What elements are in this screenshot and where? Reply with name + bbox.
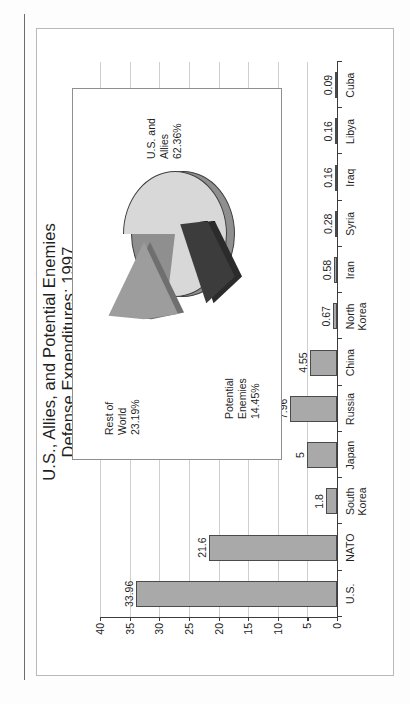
- bar: 0.67: [333, 303, 337, 329]
- bar-value-label: 4.55: [297, 352, 309, 372]
- y-axis-tick: [130, 617, 131, 621]
- pie-label-us-and-allies: U.S. and Allies 62.36%: [145, 93, 184, 159]
- chart-canvas: U.S., Allies, and Potential Enemies Defe…: [38, 30, 390, 674]
- bar: 0.58: [334, 257, 337, 283]
- y-axis-tick-label: 5: [301, 623, 313, 629]
- figure-caption: Figure 2.2: [0, 606, 2, 696]
- x-axis-category-label: Iran: [344, 261, 356, 279]
- bar: 0.16: [335, 118, 337, 144]
- y-axis-tick-label: 35: [124, 623, 136, 635]
- bar: 0.28: [335, 211, 337, 237]
- bar: 1.8: [326, 488, 337, 514]
- x-axis-tick: [337, 107, 342, 108]
- pie-label-potential-enemies: Potential Enemies 14.45%: [223, 347, 262, 419]
- bar-value-label: 21.6: [196, 537, 208, 557]
- bar-value-label: 0.09: [322, 75, 334, 95]
- y-axis-tick: [100, 617, 101, 621]
- x-axis-category-label: Cuba: [344, 73, 356, 98]
- x-axis-tick: [337, 153, 342, 154]
- x-axis-tick: [337, 616, 342, 617]
- x-axis-category-label: Syria: [344, 212, 356, 236]
- x-axis-tick: [337, 292, 342, 293]
- pie-label-rest-of-world: Rest of World 23.19%: [103, 369, 142, 435]
- x-axis-tick: [337, 431, 342, 432]
- bar: 33.96: [136, 581, 337, 607]
- inset-pie-panel: U.S. and Allies 62.36% Rest of World 23.…: [72, 88, 282, 460]
- y-axis-tick: [248, 617, 249, 621]
- chart-rotation-wrapper: U.S., Allies, and Potential Enemies Defe…: [38, 30, 390, 674]
- bar: 5: [307, 442, 337, 468]
- y-axis-tick-label: 20: [213, 623, 225, 635]
- x-axis-category-label: South Korea: [344, 487, 368, 515]
- y-axis-tick: [307, 617, 308, 621]
- y-axis-tick: [159, 617, 160, 621]
- x-axis-tick: [337, 61, 342, 62]
- page-background: Figure 2.2 U.S., Allies, and Potential E…: [0, 0, 410, 704]
- bar: 7.96: [290, 396, 337, 422]
- bar: 21.6: [209, 535, 337, 561]
- y-axis-tick-label: 25: [183, 623, 195, 635]
- pie-chart: [97, 153, 262, 323]
- x-axis-tick: [337, 523, 342, 524]
- bar: 0.16: [335, 165, 337, 191]
- x-axis-category-label: Japan: [344, 441, 356, 470]
- x-axis-tick: [337, 338, 342, 339]
- y-axis-tick-label: 40: [94, 623, 106, 635]
- x-axis-tick: [337, 200, 342, 201]
- bar-value-label: 5: [294, 452, 306, 458]
- x-axis-tick: [337, 246, 342, 247]
- bar-value-label: 1.8: [313, 494, 325, 509]
- caption-vertical-rule: [24, 14, 25, 680]
- x-axis-category-label: Libya: [344, 119, 356, 144]
- x-axis-category-label: North Korea: [344, 302, 368, 330]
- y-axis-tick: [337, 617, 338, 621]
- bar-value-label: 0.28: [322, 214, 334, 234]
- x-axis-tick: [337, 385, 342, 386]
- y-axis-tick: [189, 617, 190, 621]
- x-axis-tick: [337, 570, 342, 571]
- bar-value-label: 0.16: [322, 167, 334, 187]
- y-axis-tick: [219, 617, 220, 621]
- bar: 4.55: [310, 350, 337, 376]
- x-axis-category-label: NATO: [344, 534, 356, 562]
- x-axis-category-label: Russia: [344, 393, 356, 425]
- chart-title-line-1: U.S., Allies, and Potential Enemies: [40, 30, 59, 674]
- bar-value-label: 0.16: [322, 121, 334, 141]
- y-axis-tick-label: 10: [272, 623, 284, 635]
- y-axis-tick: [278, 617, 279, 621]
- bar-value-label: 0.67: [320, 306, 332, 326]
- x-axis-tick: [337, 477, 342, 478]
- x-axis-category-label: Iraq: [344, 169, 356, 187]
- y-axis-tick-label: 0: [331, 623, 343, 629]
- x-axis-category-label: U.S.: [344, 584, 356, 604]
- bar-value-label: 33.96: [123, 581, 135, 607]
- y-axis-tick-label: 30: [153, 623, 165, 635]
- x-axis-category-label: China: [344, 349, 356, 376]
- bar-value-label: 0.58: [321, 260, 333, 280]
- y-axis-tick-label: 15: [242, 623, 254, 635]
- bar: 0.09: [335, 72, 337, 98]
